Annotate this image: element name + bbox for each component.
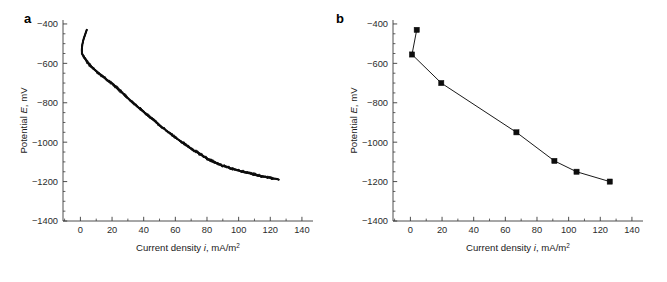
data-point-marker (552, 158, 557, 163)
x-tick-label: 40 (139, 225, 149, 235)
data-point-marker (607, 179, 612, 184)
y-tick-label: −600 (367, 59, 388, 69)
data-point-marker (514, 130, 519, 135)
y-tick-label: −800 (367, 98, 388, 108)
x-tick-label: 140 (624, 225, 640, 235)
y-tick-label: −1200 (362, 177, 388, 187)
axis-spines (393, 20, 643, 221)
panel-a: 020406080100120140−400−600−800−1000−1200… (0, 0, 334, 282)
x-tick-label: 20 (107, 225, 117, 235)
x-tick-label: 60 (500, 225, 510, 235)
polarization-curve (82, 30, 279, 180)
panel-a-label: a (24, 12, 31, 25)
data-point-marker (409, 52, 414, 57)
x-tick-label: 0 (78, 225, 83, 235)
figure-container: 020406080100120140−400−600−800−1000−1200… (0, 0, 667, 282)
data-point-marker (414, 27, 419, 32)
panel-b-label: b (336, 12, 344, 25)
x-axis-title: Current density i, mA/m2 (466, 242, 570, 253)
data-point-marker (439, 80, 444, 85)
x-tick-label: 20 (437, 225, 447, 235)
y-tick-label: −400 (37, 19, 58, 29)
y-tick-label: −1400 (32, 216, 58, 226)
x-tick-label: 60 (170, 225, 180, 235)
axis-spines (63, 20, 313, 221)
x-tick-label: 100 (231, 225, 247, 235)
x-tick-label: 120 (593, 225, 609, 235)
y-tick-label: −600 (37, 59, 58, 69)
data-point-marker (574, 169, 579, 174)
polarization-curve-noise (82, 30, 279, 180)
x-axis-title: Current density i, mA/m2 (136, 242, 240, 253)
x-tick-label: 0 (408, 225, 413, 235)
polarization-curve-noise (82, 30, 279, 180)
panel-b: 020406080100120140−400−600−800−1000−1200… (333, 0, 667, 282)
y-tick-label: −1000 (362, 138, 388, 148)
polarization-curve-noise (82, 30, 279, 180)
x-tick-label: 80 (202, 225, 212, 235)
y-axis-title: Potential E, mV (18, 87, 29, 154)
polarization-curve-noise (82, 30, 279, 180)
x-tick-label: 120 (263, 225, 279, 235)
y-axis-title: Potential E, mV (348, 87, 359, 154)
panel-b-plot: 020406080100120140−400−600−800−1000−1200… (333, 0, 667, 282)
x-tick-label: 140 (294, 225, 310, 235)
x-tick-label: 80 (532, 225, 542, 235)
panel-a-plot: 020406080100120140−400−600−800−1000−1200… (0, 0, 334, 282)
y-tick-label: −1400 (362, 216, 388, 226)
x-tick-label: 40 (469, 225, 479, 235)
y-tick-label: −400 (367, 19, 388, 29)
polarization-curve (412, 30, 610, 182)
y-tick-label: −800 (37, 98, 58, 108)
x-tick-label: 100 (561, 225, 577, 235)
y-tick-label: −1000 (32, 138, 58, 148)
polarization-curve-noise (81, 30, 278, 180)
y-tick-label: −1200 (32, 177, 58, 187)
